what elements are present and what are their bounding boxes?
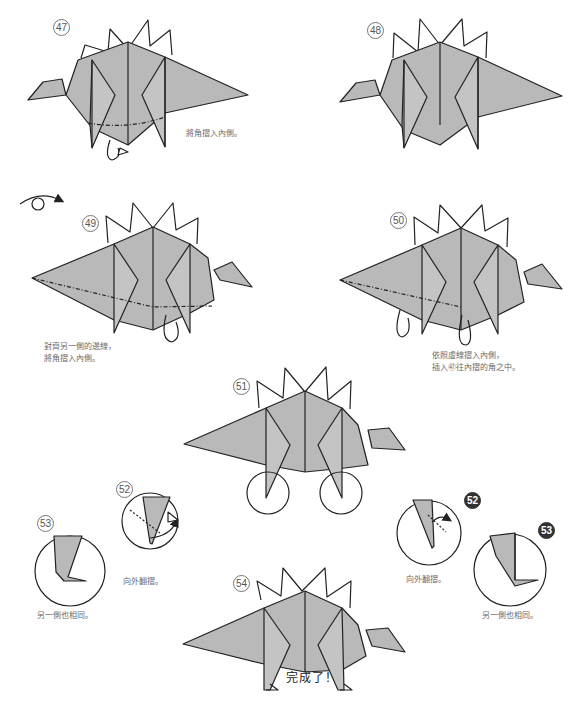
completion-caption: 完成了！ xyxy=(286,668,338,685)
instruction-page: 47 48 49 50 51 52 53 52 53 54 將角摺入內側。 對齊… xyxy=(0,0,572,715)
step-number-47: 47 xyxy=(53,19,70,36)
step-number-54: 54 xyxy=(233,575,250,592)
caption-step-50: 依照虛線摺入內側， 插入㊼往內摺的角之中。 xyxy=(432,350,520,374)
step-number-52-left: 52 xyxy=(116,481,133,498)
caption-step-52-right: 向外翻摺。 xyxy=(406,574,446,586)
step-number-53-left: 53 xyxy=(37,515,54,532)
step-50-figure xyxy=(340,205,562,345)
step-number-48: 48 xyxy=(367,22,384,39)
turn-over-icon xyxy=(20,196,60,210)
step-51-figure xyxy=(184,367,405,514)
caption-step-52-left: 向外翻摺。 xyxy=(123,576,163,588)
step-number-51: 51 xyxy=(233,378,250,395)
step-52-left-figure xyxy=(122,493,178,549)
caption-step-47: 將角摺入內側。 xyxy=(186,128,242,140)
caption-step-53-right: 另一側也相同。 xyxy=(482,610,538,622)
step-52-right-figure xyxy=(397,500,461,565)
step-53-right-figure xyxy=(474,533,546,606)
step-53-left-figure xyxy=(35,536,105,606)
step-number-52-right: 52 xyxy=(464,492,481,509)
caption-step-53-left: 另一側也相同。 xyxy=(37,610,93,622)
step-number-49: 49 xyxy=(82,215,99,232)
step-number-50: 50 xyxy=(390,212,407,229)
step-49-figure xyxy=(32,203,252,342)
step-number-53-right: 53 xyxy=(538,522,555,539)
caption-step-49: 對齊另一側的邊線， 將角摺入內側。 xyxy=(44,341,116,365)
